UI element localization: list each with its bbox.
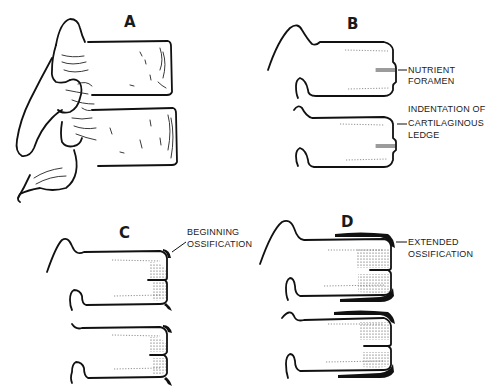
panel-label-d: D: [341, 213, 353, 231]
panel-a: A: [17, 13, 177, 202]
panel-c: C BEGINNING OSSIFICATION: [47, 224, 252, 386]
annotation-text: CARTILAGINOUS: [408, 118, 484, 128]
panel-b: B NUTRIENT FORAMEN INDENTATION OF CARTIL…: [268, 15, 486, 167]
annotation-text: BEGINNING: [187, 227, 239, 237]
panel-d: D EXTENDED OSSIFICATION: [260, 213, 473, 378]
annotation-text: OSSIFICATION: [187, 239, 252, 249]
annotation-beginning-ossification: BEGINNING OSSIFICATION: [172, 227, 252, 252]
annotation-text: OSSIFICATION: [408, 249, 473, 259]
panel-label-b: B: [347, 15, 358, 33]
annotation-extended-ossification: EXTENDED OSSIFICATION: [396, 237, 473, 259]
vertebra-schematic-d: [260, 221, 395, 378]
panel-label-a: A: [124, 13, 136, 31]
vertebral-ossification-diagram: A: [0, 0, 499, 391]
annotation-text: EXTENDED: [408, 237, 459, 247]
vertebra-schematic-b: [268, 25, 396, 167]
annotation-nutrient-foramen: NUTRIENT FORAMEN: [398, 65, 455, 86]
annotation-text: NUTRIENT: [408, 65, 455, 75]
annotation-text: INDENTATION OF: [408, 104, 486, 114]
annotation-text: LEDGE: [408, 130, 440, 140]
annotation-indentation-cartilaginous-ledge: INDENTATION OF CARTILAGINOUS LEDGE: [397, 104, 486, 140]
annotation-text: FORAMEN: [408, 76, 454, 86]
panel-label-c: C: [119, 224, 130, 242]
vertebra-schematic-c: [47, 239, 172, 386]
vertebra-lateral-view-illustration: [17, 19, 177, 202]
